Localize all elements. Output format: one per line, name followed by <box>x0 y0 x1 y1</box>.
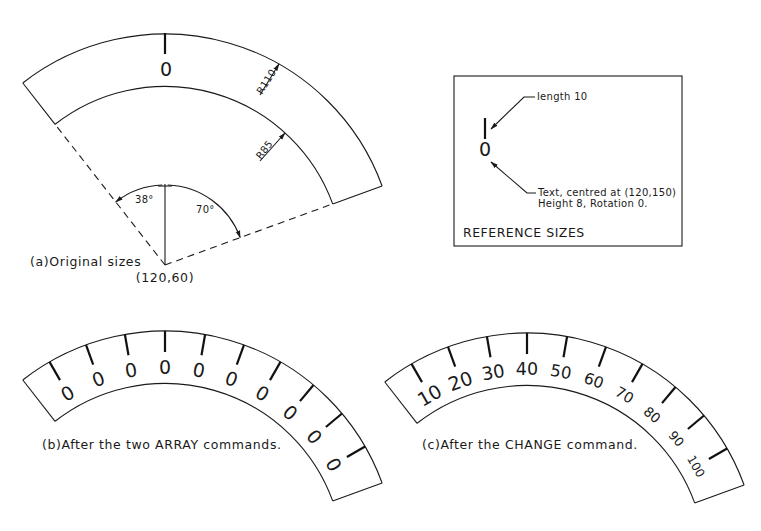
inner-arc-r85 <box>55 86 333 203</box>
tick-label: 30 <box>480 360 506 385</box>
center-coordinate-label: (120,60) <box>136 270 194 285</box>
text-note-line1: Text, centred at (120,150) <box>537 187 676 198</box>
tick-mark <box>599 347 606 367</box>
tick-label: 0 <box>57 381 78 406</box>
tick-label: 0 <box>123 358 139 382</box>
tick-label: 0 <box>302 425 327 448</box>
tick-label: 80 <box>641 403 664 426</box>
tick-mark <box>347 447 365 458</box>
right-construction-line <box>165 204 333 265</box>
tick-label: 0 <box>89 366 108 391</box>
tick-mark <box>632 364 643 382</box>
left-edge <box>23 83 55 124</box>
tick-label: 50 <box>549 361 573 383</box>
tick-label: 10 <box>414 380 446 411</box>
tick-mark <box>202 335 206 356</box>
tick-label: 0 <box>191 358 207 382</box>
tick-label: 90 <box>666 428 688 450</box>
tick-mark <box>487 337 491 358</box>
tick-text: 0 <box>160 58 172 80</box>
left-edge <box>23 380 55 421</box>
angle-70-label: 70° <box>196 204 215 215</box>
tick-mark <box>688 416 704 430</box>
reference-text: 0 <box>479 138 491 160</box>
drawing-canvas: 0 38° 70° R110 R85 (a)Original sizes (12… <box>0 0 761 531</box>
tick-label: 0 <box>321 454 346 475</box>
r85-label: R85 <box>254 138 275 161</box>
length-leader <box>491 97 535 129</box>
figure-c: 102030405060708090100 (c)After the CHANG… <box>385 333 744 503</box>
tick-label: 40 <box>516 359 538 379</box>
reference-sizes-box: 0 length 10 Text, centred at (120,150) H… <box>454 76 682 246</box>
figure-c-caption: (c)After the CHANGE command. <box>422 437 638 452</box>
labelled-ticks: 102030405060708090100 <box>412 333 728 480</box>
reference-title: REFERENCE SIZES <box>463 225 585 240</box>
tick-mark <box>237 345 244 365</box>
tick-mark <box>709 449 727 460</box>
text-leader <box>491 162 536 193</box>
tick-label: 0 <box>279 400 302 425</box>
angle-38-label: 38° <box>135 194 154 205</box>
figure-b: 0000000000 (b)After the two ARRAY comman… <box>23 331 382 501</box>
length-note: length 10 <box>537 91 587 102</box>
figure-a: 0 38° 70° R110 R85 (a)Original sizes (12… <box>23 33 382 285</box>
tick-label: 70 <box>613 384 637 407</box>
tick-label: 0 <box>222 366 241 391</box>
tick-mark <box>270 362 281 380</box>
tick-mark <box>125 335 129 356</box>
left-edge <box>385 382 417 423</box>
tick-mark <box>564 337 568 358</box>
tick-mark <box>50 362 61 380</box>
tick-label: 20 <box>445 366 475 395</box>
figure-b-caption: (b)After the two ARRAY commands. <box>42 437 282 452</box>
r110-label: R110 <box>254 67 278 96</box>
tick-mark <box>86 345 93 365</box>
text-note-line2: Height 8, Rotation 0. <box>538 198 648 209</box>
tick-mark <box>448 347 455 367</box>
figure-a-caption: (a)Original sizes <box>30 254 141 269</box>
tick-mark <box>412 364 423 382</box>
arrayed-ticks: 0000000000 <box>50 331 366 475</box>
tick-label: 60 <box>581 369 606 393</box>
tick-mark <box>300 385 314 401</box>
tick-label: 100 <box>684 453 708 480</box>
tick-mark <box>326 414 342 428</box>
right-edge <box>333 483 382 501</box>
tick-mark <box>662 387 676 403</box>
right-edge <box>695 485 744 503</box>
tick-label: 0 <box>252 381 273 406</box>
right-edge <box>333 186 382 204</box>
tick-label: 0 <box>159 356 171 378</box>
